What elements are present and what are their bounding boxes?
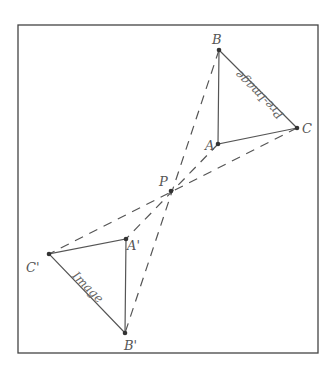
center-point [169, 189, 174, 194]
preimage-caption: Pre-Image [232, 68, 287, 123]
label-b-prime: B' [123, 338, 137, 353]
label-a-prime: A' [126, 238, 140, 253]
reflection-diagram: B A C P A' B' C' Pre-Image Image [0, 0, 335, 375]
diagram-frame [18, 25, 318, 353]
image-caption: Image [69, 268, 107, 306]
label-a: A [204, 138, 214, 153]
label-p: P [158, 174, 168, 189]
label-c: C [302, 121, 312, 136]
label-c-prime: C' [26, 260, 40, 275]
label-b: B [211, 32, 222, 47]
